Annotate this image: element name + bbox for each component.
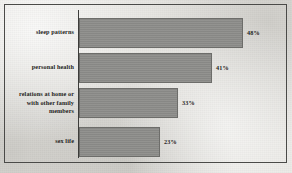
bar-category-line: personal health bbox=[32, 63, 74, 70]
bar-category-label: relations at home or with other family m… bbox=[4, 90, 74, 116]
bar-row: relations at home or with other family m… bbox=[0, 88, 292, 118]
bar-rect bbox=[79, 53, 212, 83]
bar-category-line: sex life bbox=[55, 137, 74, 144]
bar-rect bbox=[79, 18, 243, 48]
bar-row: personal health 41% bbox=[0, 53, 292, 83]
bar-category-label: personal health bbox=[4, 63, 74, 72]
plot-area: sleep patterns 48% personal health 41% r… bbox=[0, 0, 292, 173]
bar-rect bbox=[79, 127, 160, 157]
bar-category-line: relations at home or bbox=[19, 90, 74, 97]
bar-category-line: sleep patterns bbox=[36, 28, 74, 35]
bar-category-label: sleep patterns bbox=[4, 28, 74, 37]
bar-value-label: 23% bbox=[164, 138, 177, 145]
bar-rect bbox=[79, 88, 178, 118]
bar-value-label: 41% bbox=[216, 64, 229, 71]
bar-row: sex life 23% bbox=[0, 127, 292, 157]
bar-category-label: sex life bbox=[4, 137, 74, 146]
bar-value-label: 33% bbox=[182, 99, 195, 106]
bar-category-line: with other family bbox=[27, 99, 74, 106]
bar-value-label: 48% bbox=[247, 29, 260, 36]
bar-category-line: members bbox=[49, 107, 74, 114]
bar-chart-figure: sleep patterns 48% personal health 41% r… bbox=[0, 0, 292, 173]
bar-row: sleep patterns 48% bbox=[0, 18, 292, 48]
